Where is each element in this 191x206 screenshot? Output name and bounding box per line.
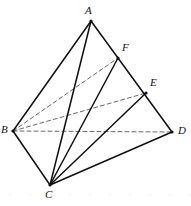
hidden-edges-group — [13, 58, 172, 132]
vertex-label-f: F — [122, 42, 129, 53]
vertex-point-a — [89, 19, 92, 22]
geometry-canvas — [0, 0, 191, 206]
edge-CF — [50, 58, 118, 185]
edge-AC — [50, 21, 91, 185]
vertex-markers-group — [11, 19, 173, 186]
vertex-point-c — [48, 183, 51, 186]
vertex-label-d: D — [178, 125, 186, 136]
vertex-point-f — [116, 56, 119, 59]
edge-AB — [13, 21, 91, 131]
edge-AD — [91, 21, 172, 132]
geometry-figure: ABCDEF · · · · · · · · · · · · — [0, 0, 191, 206]
edge-CD — [50, 132, 172, 185]
vertex-point-d — [170, 130, 173, 133]
visible-edges-group — [13, 21, 172, 185]
vertex-label-a: A — [85, 5, 92, 16]
vertex-label-c: C — [45, 189, 52, 200]
edge-BD — [13, 131, 172, 132]
vertex-label-b: B — [1, 124, 8, 135]
vertex-point-e — [144, 91, 147, 94]
vertex-point-b — [11, 129, 14, 132]
vertex-label-e: E — [150, 77, 157, 88]
edge-BC — [13, 131, 50, 185]
